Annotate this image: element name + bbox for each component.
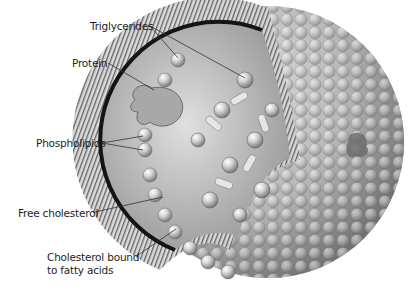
label-protein: Protein: [72, 57, 107, 69]
label-cholesterol-bound-line1: Cholesterol bound: [47, 251, 139, 263]
label-free-cholesterol: Free cholesterol: [18, 207, 98, 219]
label-cholesterol-bound-line2: to fatty acids: [47, 264, 113, 276]
label-phospholipids: Phospholipids: [36, 137, 106, 149]
label-triglycerides: Triglycerides: [90, 20, 153, 32]
lipoprotein-diagram: Triglycerides Protein Phospholipids Free…: [0, 0, 412, 293]
